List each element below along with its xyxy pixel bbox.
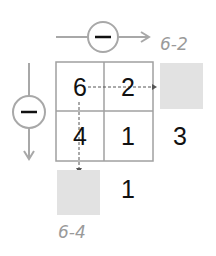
grid-cell-r2c2: 1 [114, 124, 142, 149]
horizontal-expression-label: 6-2 [160, 36, 188, 53]
grid-cell-r1c2: 2 [114, 75, 142, 100]
grid-cell-r2c1: 4 [66, 124, 94, 149]
row-result-2: 3 [166, 124, 194, 149]
blank-answer-box-column[interactable] [57, 170, 100, 215]
grid-cell-r1c1: 6 [66, 75, 94, 100]
column-result-2: 1 [114, 177, 142, 202]
blank-answer-box-row[interactable] [160, 63, 203, 109]
vertical-expression-label: 6-4 [58, 224, 86, 241]
